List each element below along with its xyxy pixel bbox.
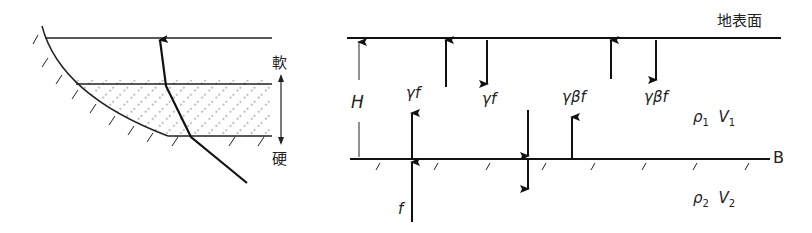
surface-label: 地表面 — [717, 14, 762, 29]
soft-layer-fill — [75, 80, 272, 137]
wave-label-2: γf — [482, 92, 496, 107]
left-basin-diagram — [33, 26, 284, 183]
thickness-label: H — [351, 94, 364, 111]
wave-label-3: γβf — [562, 90, 586, 105]
incident-label: f — [398, 202, 403, 217]
wave-label-4: γβf — [644, 90, 668, 105]
layer2-properties: ρ2 V2 — [693, 191, 735, 209]
soft-label: 軟 — [272, 56, 287, 71]
wave-label-1: γf — [406, 86, 420, 101]
hard-label: 硬 — [272, 152, 287, 167]
boundary-label: B — [773, 150, 784, 166]
layer1-properties: ρ1 V1 — [693, 110, 735, 128]
diagram-canvas — [0, 0, 812, 233]
